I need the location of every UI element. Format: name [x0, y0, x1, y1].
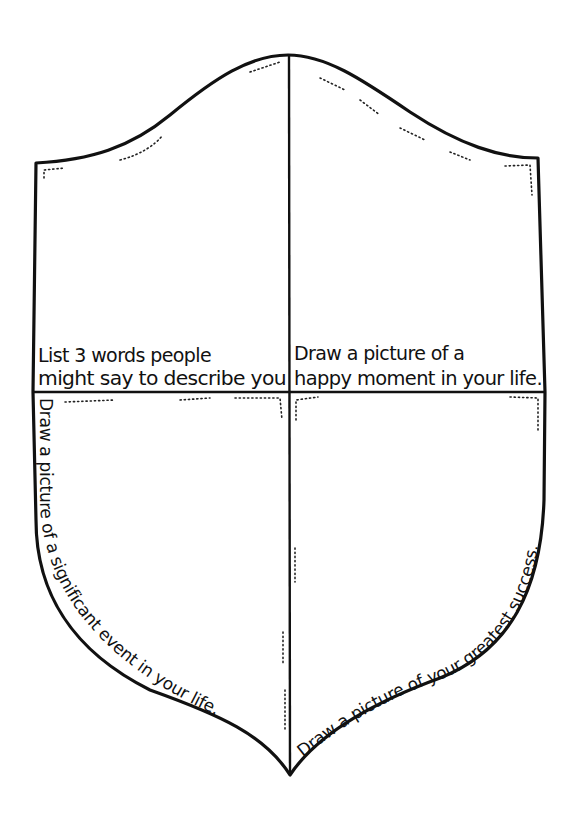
dotted-accent-top-right — [320, 78, 532, 195]
vertical-divider — [289, 55, 290, 775]
top-right-prompt-line2: happy moment in your life. — [294, 367, 542, 389]
dotted-accent-mid-left — [65, 398, 282, 420]
bottom-right-prompt: Draw a picture of your greatest success. — [293, 544, 542, 761]
bottom-left-prompt: Draw a picture of a significant event in… — [36, 398, 223, 719]
top-right-prompt-line1: Draw a picture of a — [294, 342, 464, 364]
top-left-prompt-line2: might say to describe you — [38, 367, 286, 389]
shield-diagram: List 3 words people might say to describ… — [0, 0, 576, 821]
dotted-accent-mid-right — [296, 397, 538, 430]
top-left-prompt-line1: List 3 words people — [38, 344, 211, 366]
